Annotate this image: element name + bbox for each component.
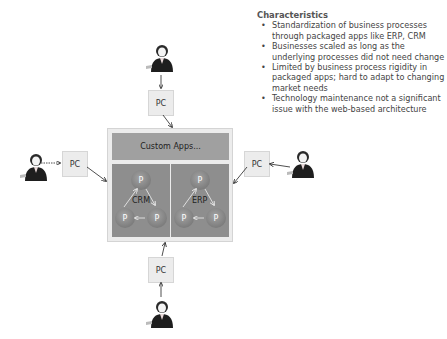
connections (0, 0, 447, 339)
person-icon-right (287, 151, 314, 178)
person-icon-left (20, 154, 47, 181)
person-icon-bottom (146, 301, 173, 328)
person-icon-top (146, 45, 173, 72)
